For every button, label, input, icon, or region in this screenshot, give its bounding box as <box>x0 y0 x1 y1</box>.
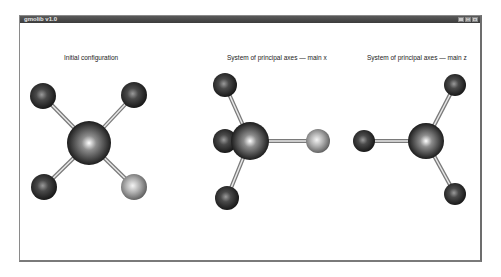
dark-atom <box>30 83 56 109</box>
molecule-canvas <box>0 0 501 277</box>
dark-atom <box>353 130 375 152</box>
dark-atom <box>31 174 57 200</box>
center-atom <box>231 122 269 160</box>
center-atom <box>408 123 444 159</box>
dark-atom <box>215 186 239 210</box>
molecule-1 <box>213 73 330 210</box>
dark-atom <box>444 183 466 205</box>
dark-atom <box>121 82 147 108</box>
molecule-2 <box>353 74 466 205</box>
molecule-0 <box>30 82 147 200</box>
light-atom <box>306 129 330 153</box>
dark-atom <box>213 73 237 97</box>
center-atom <box>67 121 111 165</box>
dark-atom <box>444 74 466 96</box>
light-atom <box>121 174 147 200</box>
